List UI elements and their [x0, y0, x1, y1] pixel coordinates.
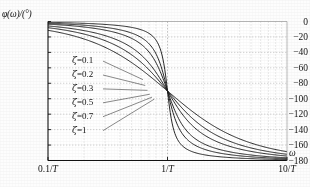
- zeta-annotation: ζ=0.3: [72, 83, 93, 93]
- y-tick-label: −140: [264, 125, 310, 135]
- zeta-annotation: ζ=0.5: [72, 97, 93, 107]
- y-tick-label: −60: [264, 63, 310, 73]
- y-tick-label: −80: [264, 78, 310, 88]
- x-tick-label: 0.1/T: [38, 164, 58, 174]
- y-axis-label: φ(ω)/(°): [2, 9, 31, 19]
- y-tick-label-zero: 0: [264, 17, 310, 27]
- zeta-annotation: ζ=0.1: [72, 55, 93, 65]
- y-tick-label: −160: [264, 140, 310, 150]
- x-tick-label: 1/T: [161, 164, 174, 174]
- y-tick-label: −120: [264, 109, 310, 119]
- omega-axis-symbol: ω: [289, 148, 296, 158]
- y-tick-label: −100: [264, 94, 310, 104]
- zeta-annotation: ζ=1: [72, 125, 86, 135]
- bode-phase-plot-figure: φ(ω)/(°) −20−40−60−80−100−120−140−160−18…: [0, 0, 310, 187]
- zeta-annotation: ζ=0.2: [72, 69, 93, 79]
- y-tick-label: −20: [264, 32, 310, 42]
- y-tick-label: −40: [264, 47, 310, 57]
- x-tick-label: 10/T: [278, 164, 295, 174]
- zeta-annotation: ζ=0.7: [72, 111, 93, 121]
